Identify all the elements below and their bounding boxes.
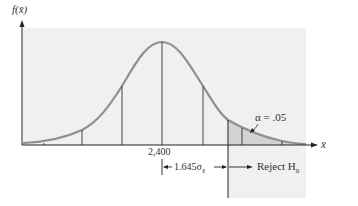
distance-label: 1.645σx̄ (174, 162, 205, 175)
reject-label-subscript: 0 (296, 167, 300, 175)
sampling-distribution-diagram: f(x̄) x̄ 2,400 α = .05 1.645σx̄ Reject H… (0, 0, 358, 206)
y-axis-label: f(x̄) (12, 4, 27, 15)
mean-label: 2,400 (148, 147, 171, 157)
distance-label-subscript: x̄ (202, 167, 205, 175)
y-axis-arrow-icon (20, 20, 25, 27)
diagram-canvas (0, 0, 358, 206)
distance-label-text: 1.645σ (174, 161, 202, 172)
distance-arrow-right (214, 165, 227, 169)
plot-panel (23, 28, 306, 145)
reject-label-text: Reject H (257, 160, 296, 172)
reject-label: Reject H0 (257, 161, 299, 175)
x-axis-arrow-icon (311, 143, 318, 148)
alpha-label: α = .05 (255, 112, 286, 123)
x-axis-label: x̄ (321, 139, 326, 150)
distance-arrow-left (163, 165, 172, 169)
